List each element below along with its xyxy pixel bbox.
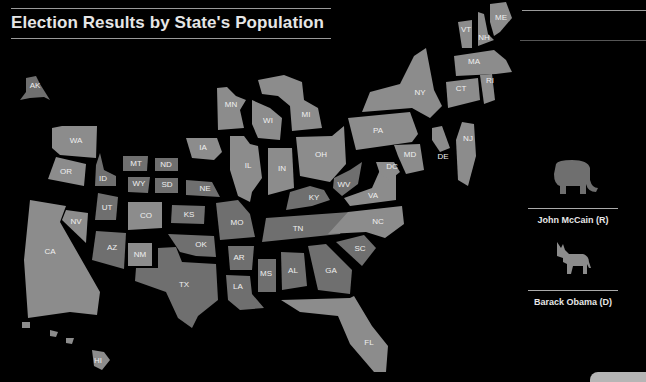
state-NM: NM xyxy=(128,243,152,266)
state-OR: OR xyxy=(48,157,86,186)
svg-text:FL: FL xyxy=(364,338,374,347)
legend-republican: John McCain (R) xyxy=(525,160,621,225)
elephant-icon xyxy=(548,160,598,198)
svg-text:IL: IL xyxy=(245,161,252,170)
svg-text:NY: NY xyxy=(414,88,426,97)
svg-text:RI: RI xyxy=(486,76,494,85)
state-AL: AL xyxy=(281,252,307,290)
state-KS: KS xyxy=(171,205,205,224)
state-GA: GA xyxy=(308,244,352,294)
state-ID: ID xyxy=(95,153,116,186)
state-PA: PA xyxy=(348,112,418,150)
legend-divider xyxy=(528,290,618,291)
svg-text:NC: NC xyxy=(372,217,384,226)
svg-text:IN: IN xyxy=(278,164,286,173)
state-NY: NY xyxy=(362,48,442,118)
svg-text:NV: NV xyxy=(70,217,82,226)
donkey-icon xyxy=(553,240,593,278)
svg-text:WV: WV xyxy=(338,180,352,189)
state-ND: ND xyxy=(155,158,178,171)
svg-text:MN: MN xyxy=(225,100,238,109)
svg-text:MS: MS xyxy=(260,269,272,278)
state-IN: IN xyxy=(268,148,294,195)
legend-divider xyxy=(528,208,618,209)
svg-text:OH: OH xyxy=(315,150,327,159)
state-OH: OH xyxy=(296,126,346,182)
state-MO: MO xyxy=(216,200,255,240)
state-NJ: NJ xyxy=(456,122,476,186)
svg-text:WY: WY xyxy=(133,179,147,188)
svg-text:IA: IA xyxy=(199,143,207,152)
state-FL: FL xyxy=(281,296,388,372)
svg-text:AR: AR xyxy=(233,253,244,262)
svg-text:MD: MD xyxy=(404,150,417,159)
svg-text:AZ: AZ xyxy=(107,243,117,252)
state-AZ: AZ xyxy=(92,231,126,269)
state-SD: SD xyxy=(155,178,178,193)
svg-text:WA: WA xyxy=(70,136,83,145)
state-MN: MN xyxy=(217,87,246,130)
state-RI: RI xyxy=(480,74,495,104)
state-HI: HI xyxy=(22,322,110,370)
svg-text:NH: NH xyxy=(478,33,490,42)
svg-text:OR: OR xyxy=(60,167,72,176)
state-NE: NE xyxy=(186,180,220,197)
state-MA: MA xyxy=(454,50,512,76)
state-WA: WA xyxy=(52,126,97,158)
state-DE: DE xyxy=(432,126,450,161)
svg-text:ND: ND xyxy=(160,160,172,169)
state-CT: CT xyxy=(446,78,480,108)
state-ME: ME xyxy=(490,2,512,36)
state-WY: WY xyxy=(128,177,150,193)
legend-label-obama: Barack Obama (D) xyxy=(525,297,621,307)
svg-text:UT: UT xyxy=(102,203,113,212)
svg-text:VT: VT xyxy=(461,25,471,34)
svg-text:NM: NM xyxy=(134,250,147,259)
state-MT: MT xyxy=(123,156,148,171)
svg-text:MI: MI xyxy=(302,110,311,119)
state-WI: WI xyxy=(252,100,282,140)
legend-label-mccain: John McCain (R) xyxy=(525,215,621,225)
state-CA: CA xyxy=(24,200,100,318)
svg-text:DC: DC xyxy=(386,162,398,171)
svg-text:CT: CT xyxy=(456,84,467,93)
svg-text:KS: KS xyxy=(184,210,195,219)
svg-text:CA: CA xyxy=(44,247,56,256)
state-AR: AR xyxy=(228,246,254,270)
svg-text:ME: ME xyxy=(495,13,507,22)
svg-text:NJ: NJ xyxy=(463,134,473,143)
svg-text:OK: OK xyxy=(195,240,207,249)
svg-text:AL: AL xyxy=(288,266,298,275)
svg-text:ID: ID xyxy=(99,174,107,183)
state-IA: IA xyxy=(186,138,222,160)
legend-democrat: Barack Obama (D) xyxy=(525,240,621,307)
state-AK: AK xyxy=(20,76,50,100)
svg-text:SD: SD xyxy=(161,180,172,189)
state-VT: VT xyxy=(458,20,472,48)
svg-text:MA: MA xyxy=(468,57,481,66)
svg-text:NE: NE xyxy=(199,184,210,193)
svg-text:KY: KY xyxy=(309,193,320,202)
corner-panel xyxy=(590,372,646,382)
svg-text:MO: MO xyxy=(231,218,244,227)
svg-text:AK: AK xyxy=(30,81,41,90)
svg-text:GA: GA xyxy=(325,266,337,275)
svg-text:TX: TX xyxy=(179,280,190,289)
svg-text:WI: WI xyxy=(263,116,273,125)
svg-text:DE: DE xyxy=(437,152,448,161)
svg-text:TN: TN xyxy=(293,224,304,233)
state-CO: CO xyxy=(128,202,162,230)
state-NC: NC xyxy=(328,206,404,238)
state-MS: MS xyxy=(258,259,276,292)
state-IL: IL xyxy=(230,136,262,202)
svg-text:CO: CO xyxy=(140,211,152,220)
svg-text:PA: PA xyxy=(373,126,384,135)
svg-text:VA: VA xyxy=(368,191,379,200)
svg-text:MT: MT xyxy=(130,159,142,168)
svg-text:LA: LA xyxy=(233,282,243,291)
svg-text:SC: SC xyxy=(354,244,365,253)
svg-text:HI: HI xyxy=(94,356,102,365)
state-UT: UT xyxy=(95,193,118,220)
state-KY: KY xyxy=(286,186,330,210)
